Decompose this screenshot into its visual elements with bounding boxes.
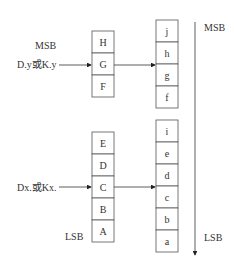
msb-label-left: MSB xyxy=(35,40,56,51)
dest-bottom-register: iedcba xyxy=(156,120,178,252)
source-bottom-register: EDCBA xyxy=(92,132,114,242)
register-cell: H xyxy=(92,31,114,53)
register-cell: b xyxy=(156,208,178,230)
register-cell-label: G xyxy=(99,59,106,70)
lsb-label-left: LSB xyxy=(65,231,84,242)
register-cell-label: H xyxy=(99,37,106,48)
register-cell: c xyxy=(156,186,178,208)
register-cell: G xyxy=(92,53,114,75)
register-cell-label: h xyxy=(165,48,170,59)
register-cell-label: g xyxy=(165,70,170,81)
lsb-label-right: LSB xyxy=(204,232,223,243)
register-cell: D xyxy=(92,154,114,176)
register-cell: B xyxy=(92,198,114,220)
register-cell-label: b xyxy=(165,214,170,225)
register-cell-label: A xyxy=(99,226,107,237)
register-cell-label: c xyxy=(165,192,170,203)
input-label-bottom: Dx.或Kx. xyxy=(17,182,56,193)
register-cell-label: e xyxy=(165,148,170,159)
register-cell-label: a xyxy=(165,236,170,247)
register-cell: E xyxy=(92,132,114,154)
register-cell: f xyxy=(156,86,178,108)
register-cell: A xyxy=(92,220,114,242)
register-cell: F xyxy=(92,75,114,97)
register-cell: a xyxy=(156,230,178,252)
register-cell-label: F xyxy=(100,81,106,92)
register-cell-label: E xyxy=(100,138,106,149)
register-cell-label: D xyxy=(99,160,106,171)
register-cell: d xyxy=(156,164,178,186)
register-cell: C xyxy=(92,176,114,198)
dest-top-register: jhgf xyxy=(156,20,178,108)
register-cell: i xyxy=(156,120,178,142)
register-cell-label: i xyxy=(166,126,169,137)
register-cell: j xyxy=(156,20,178,42)
register-diagram: HGF EDCBA jhgf iedcba MSB D.y或K.y Dx.或Kx… xyxy=(0,0,234,270)
source-top-register: HGF xyxy=(92,31,114,97)
register-cell: g xyxy=(156,64,178,86)
register-cell-label: j xyxy=(165,26,169,37)
register-cell-label: B xyxy=(100,204,107,215)
register-cell-label: C xyxy=(100,182,107,193)
register-cell: h xyxy=(156,42,178,64)
register-cell: e xyxy=(156,142,178,164)
input-label-top: D.y或K.y xyxy=(17,59,56,70)
msb-label-right: MSB xyxy=(204,22,225,33)
register-cell-label: d xyxy=(165,170,170,181)
